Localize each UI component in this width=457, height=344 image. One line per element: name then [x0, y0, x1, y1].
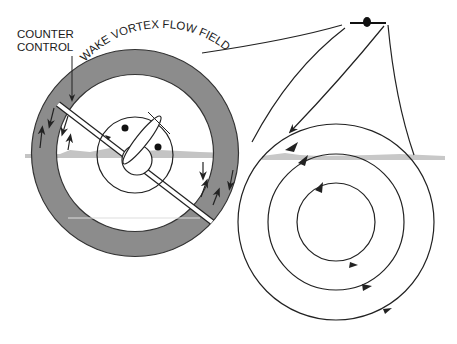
wake-vortex-diagram: COUNTER CONTROL WAKE VORTEX FLOW FIELD	[0, 0, 457, 344]
counter-control-label-line2: CONTROL	[17, 41, 74, 53]
distant-aircraft-icon	[350, 17, 386, 27]
vortex-arrows	[285, 142, 392, 314]
vortex-circles	[238, 124, 434, 320]
counter-control-label-line1: COUNTER	[17, 28, 74, 40]
